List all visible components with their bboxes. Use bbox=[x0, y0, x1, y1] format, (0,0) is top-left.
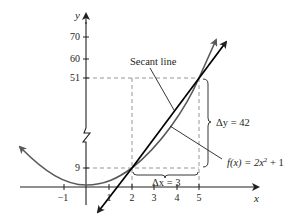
y-axis-label: y bbox=[74, 9, 80, 21]
x-tick-5: 5 bbox=[197, 192, 202, 203]
y-tick-labels: 9 51 60 70 bbox=[70, 31, 80, 173]
function-pointer bbox=[170, 126, 222, 159]
delta-y-label: Δy = 42 bbox=[216, 117, 250, 128]
secant-label: Secant line bbox=[130, 56, 177, 67]
function-label: f(x) = 2x2 + 1 bbox=[227, 156, 284, 169]
y-axis bbox=[83, 14, 90, 205]
x-axis-label: x bbox=[253, 192, 259, 204]
dashed-guides bbox=[86, 78, 199, 187]
diagram-canvas: −1 1 2 3 4 5 9 51 60 70 x y Secant line … bbox=[0, 0, 297, 223]
x-tick-1: 1 bbox=[107, 192, 112, 203]
secant-pointer bbox=[150, 68, 174, 110]
x-tick-neg1: −1 bbox=[58, 192, 69, 203]
delta-x-label: Δx = 3 bbox=[152, 177, 180, 188]
y-tick-9: 9 bbox=[75, 162, 80, 173]
y-tick-70: 70 bbox=[70, 31, 80, 42]
x-tick-labels: −1 1 2 3 4 5 bbox=[58, 192, 202, 203]
y-tick-51: 51 bbox=[70, 72, 80, 83]
x-tick-3: 3 bbox=[152, 192, 157, 203]
function-curve bbox=[22, 40, 216, 185]
curve-left-arrow bbox=[20, 147, 22, 149]
x-tick-4: 4 bbox=[175, 192, 180, 203]
x-tick-2: 2 bbox=[130, 192, 135, 203]
secant-line-diagram: −1 1 2 3 4 5 9 51 60 70 x y Secant line … bbox=[0, 0, 297, 223]
delta-y-brace bbox=[203, 79, 211, 167]
secant-line-lower bbox=[98, 168, 132, 212]
y-tick-60: 60 bbox=[70, 53, 80, 64]
